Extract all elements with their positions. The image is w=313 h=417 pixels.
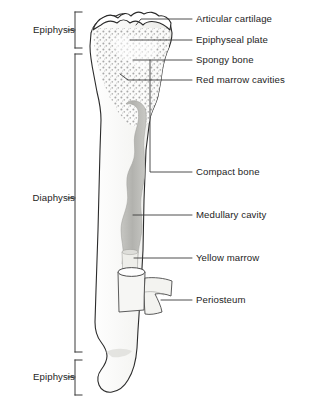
structure-label-epiphyseal-plate: Epiphyseal plate bbox=[196, 35, 268, 45]
structure-label-red-marrow-cavities: Red marrow cavities bbox=[196, 75, 285, 85]
region-label-epiphysis-distal: Epiphysis bbox=[33, 372, 75, 382]
bone-illustration bbox=[90, 12, 172, 392]
region-brackets bbox=[68, 12, 82, 395]
shaft-cut-cylinder bbox=[118, 272, 145, 312]
region-label-diaphysis: Diaphysis bbox=[33, 193, 76, 203]
structure-label-yellow-marrow: Yellow marrow bbox=[196, 253, 259, 263]
long-bone-diagram bbox=[0, 0, 313, 417]
structure-label-medullary-cavity: Medullary cavity bbox=[196, 210, 266, 220]
structure-label-periosteum: Periosteum bbox=[196, 295, 246, 305]
yellow-marrow-top-ellipse bbox=[122, 249, 138, 254]
periosteum-flap bbox=[144, 278, 172, 315]
structure-label-spongy-bone: Spongy bone bbox=[196, 55, 254, 65]
structure-label-compact-bone: Compact bone bbox=[196, 167, 260, 177]
shaft-cut-top-ellipse bbox=[118, 268, 145, 277]
region-label-epiphysis-proximal: Epiphysis bbox=[33, 25, 75, 35]
structure-label-articular-cartilage: Articular cartilage bbox=[196, 14, 272, 24]
